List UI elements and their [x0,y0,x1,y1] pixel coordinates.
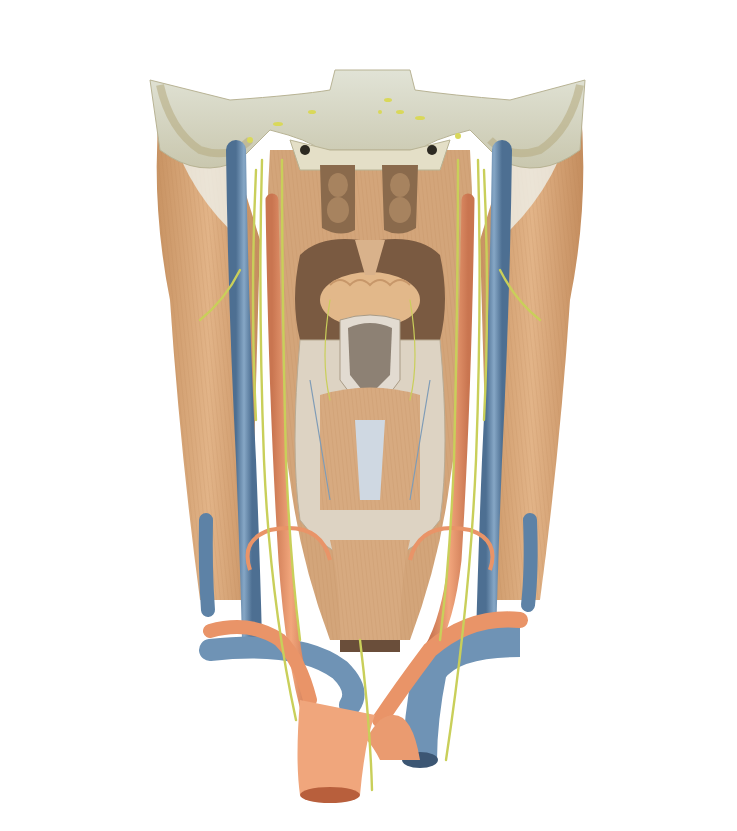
pharynx-larynx-illustration [0,0,737,831]
anatomy-figure [0,0,737,831]
skull-base [150,70,585,170]
esophagus [330,540,410,652]
larynx [295,315,445,560]
